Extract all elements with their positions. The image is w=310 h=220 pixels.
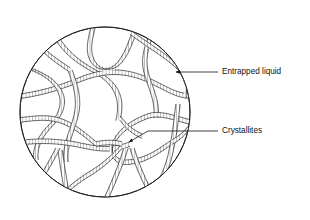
label-entrapped-liquid: Entrapped liquid (222, 67, 282, 76)
label-crystallites: Crystallites (222, 126, 262, 135)
crystallite-network-diagram: Entrapped liquid Crystallites (0, 0, 310, 220)
figure-container: Entrapped liquid Crystallites (0, 0, 310, 220)
